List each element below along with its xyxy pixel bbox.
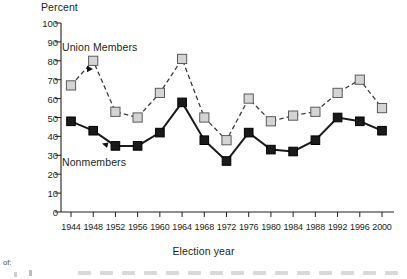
footer-artifact-block (231, 271, 244, 275)
series-layer (66, 54, 386, 165)
footer-artifact-block (144, 271, 157, 275)
data-point-marker (89, 56, 98, 65)
nonmembers-callout-arrow (102, 143, 109, 149)
page-footer-fragment: of: (3, 258, 11, 267)
footer-artifact-block (166, 271, 179, 275)
data-point-marker (222, 157, 231, 166)
data-point-marker (355, 75, 364, 84)
data-point-marker (155, 88, 164, 97)
union-members-callout-arrow (87, 66, 93, 72)
footer-artifact-mark (14, 272, 17, 277)
footer-artifact-mark-secondary (29, 270, 32, 276)
data-point-marker (111, 142, 120, 151)
data-point-marker (89, 126, 98, 135)
data-point-marker (222, 136, 231, 145)
annotation-arrows (87, 66, 109, 148)
data-point-marker (378, 126, 387, 135)
footer-artifact-block (385, 271, 398, 275)
footer-artifact-block (341, 271, 354, 275)
data-point-marker (178, 98, 187, 107)
data-point-marker (111, 107, 120, 116)
data-point-marker (311, 136, 320, 145)
footer-artifact-block (122, 271, 135, 275)
footer-artifact-block (297, 271, 310, 275)
data-point-marker (377, 104, 386, 113)
data-point-marker (244, 128, 253, 137)
data-point-marker (244, 94, 253, 103)
data-point-marker (356, 117, 365, 126)
data-point-marker (289, 147, 298, 156)
data-point-marker (133, 142, 142, 151)
data-point-marker (178, 54, 187, 63)
series-union-members (66, 54, 386, 145)
data-point-marker (156, 128, 165, 137)
footer-artifact-block (210, 271, 223, 275)
data-point-marker (333, 88, 342, 97)
data-point-marker (200, 136, 209, 145)
footer-artifact-block (100, 271, 113, 275)
data-point-marker (133, 113, 142, 122)
footer-artifact-block (363, 271, 376, 275)
data-point-marker (67, 117, 76, 126)
axis-lines (55, 23, 394, 217)
data-point-marker (266, 117, 275, 126)
chart-plot-area (0, 0, 407, 279)
footer-artifact-block (319, 271, 332, 275)
data-point-marker (289, 111, 298, 120)
footer-artifact-row (78, 271, 398, 277)
data-point-marker (267, 145, 276, 154)
footer-artifact-block (253, 271, 266, 275)
data-point-marker (200, 113, 209, 122)
data-point-marker (66, 81, 75, 90)
footer-artifact-block (188, 271, 201, 275)
chart-figure: Percent Election year Union Members Nonm… (0, 0, 407, 279)
data-point-marker (311, 107, 320, 116)
data-point-marker (333, 113, 342, 122)
footer-artifact-block (78, 271, 91, 275)
footer-artifact-block (275, 271, 288, 275)
